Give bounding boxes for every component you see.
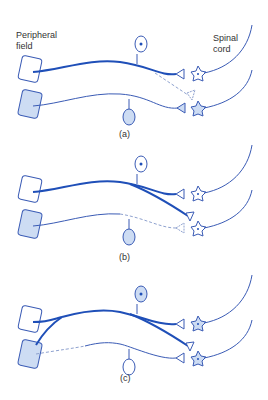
panel-c-label: (c)	[120, 373, 131, 383]
cell-body-lower	[123, 109, 135, 125]
upper-axon-strong	[33, 61, 176, 74]
panel-b-label: (b)	[119, 252, 130, 262]
panel-a-label: (a)	[119, 129, 130, 139]
receptive-field-lower	[18, 89, 43, 119]
panel-c	[18, 275, 252, 375]
lower-axon	[33, 94, 178, 108]
panel-a	[18, 25, 252, 125]
neuron-diagram	[0, 0, 268, 400]
panel-b	[18, 145, 252, 245]
terminal-upper	[176, 69, 184, 79]
receptive-field-upper	[18, 55, 43, 83]
spinal-neuron-lower	[191, 101, 206, 116]
